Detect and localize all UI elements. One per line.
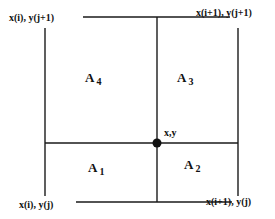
- corner-label-top-right: x(i+1), y(j+1): [196, 8, 252, 18]
- corner-label-bottom-left: x(i), y(j): [19, 200, 53, 210]
- point-marker: [153, 139, 162, 148]
- area-label-a1: A1: [88, 160, 104, 177]
- area-label-a3: A3: [177, 70, 193, 87]
- corner-label-bottom-right: x(i+1), y(j): [206, 197, 251, 207]
- area-label-a4: A4: [85, 70, 101, 87]
- grid-lines: [0, 0, 275, 219]
- area-label-a2: A2: [184, 157, 200, 174]
- point-label: x,y: [164, 128, 177, 138]
- corner-label-top-left: x(i), y(j+1): [9, 13, 54, 23]
